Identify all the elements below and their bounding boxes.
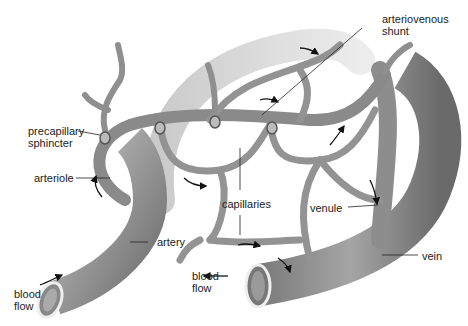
vessel-illustration bbox=[0, 0, 468, 326]
label-vein: vein bbox=[422, 250, 442, 262]
label-artery: artery bbox=[157, 236, 185, 248]
label-precapillary-sphincter: precapillarysphincter bbox=[28, 125, 84, 149]
label-blood-flow-left: bloodflow bbox=[14, 288, 41, 312]
vein bbox=[260, 70, 440, 285]
branch-stub bbox=[104, 45, 122, 130]
label-venule: venule bbox=[310, 202, 342, 214]
label-arteriovenous-shunt: arteriovenousshunt bbox=[382, 13, 449, 37]
venule bbox=[380, 70, 388, 240]
capillary-bed-diagram: arteriovenousshunt precapillarysphincter… bbox=[0, 0, 468, 326]
label-blood-flow-right: bloodflow bbox=[192, 270, 219, 294]
label-capillaries: capillaries bbox=[222, 198, 271, 210]
label-arteriole: arteriole bbox=[34, 172, 74, 184]
